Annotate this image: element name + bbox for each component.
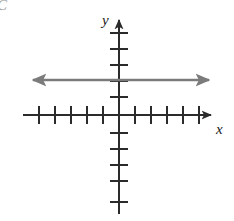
graph-figure: C [0, 0, 234, 221]
y-axis [110, 20, 128, 214]
coordinate-plane-svg [0, 0, 234, 221]
y-axis-label: y [102, 13, 109, 28]
x-axis [23, 106, 211, 124]
x-axis-label: x [216, 122, 223, 137]
